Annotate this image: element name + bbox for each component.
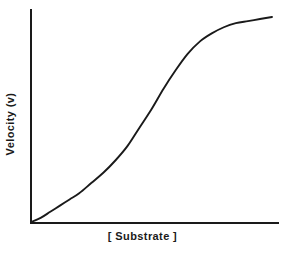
y-axis-label: Velocity (v) — [3, 78, 17, 170]
x-axis-label: [ Substrate ] — [0, 231, 285, 242]
enzyme-kinetics-chart: Velocity (v) [ Substrate ] — [0, 0, 285, 254]
plot-area — [0, 0, 285, 254]
velocity-curve — [31, 17, 272, 222]
y-axis-label-text: Velocity (v) — [5, 93, 16, 156]
